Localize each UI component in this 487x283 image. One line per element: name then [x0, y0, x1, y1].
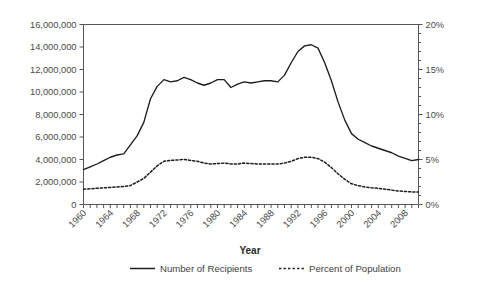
y2-tick-label: 15%: [426, 65, 445, 75]
legend-label: Percent of Population: [309, 263, 401, 274]
chart-legend: Number of RecipientsPercent of Populatio…: [130, 263, 401, 274]
x-tick-label: 1984: [228, 208, 250, 230]
y-tick-label: 8,000,000: [35, 110, 76, 120]
data-series-group: [84, 45, 419, 192]
y-tick-label: 0: [71, 200, 76, 210]
x-tick-label: 1980: [201, 208, 223, 230]
y-axis-left-ticks: 02,000,0004,000,0006,000,0008,000,00010,…: [30, 20, 84, 210]
x-axis-title: Year: [239, 245, 260, 256]
x-tick-label: 1988: [254, 208, 276, 230]
y2-tick-label: 10%: [426, 110, 445, 120]
y2-tick-label: 0%: [426, 200, 439, 210]
x-tick-label: 1976: [174, 208, 196, 230]
x-tick-label: 1992: [281, 208, 303, 230]
line-chart: 02,000,0004,000,0006,000,0008,000,00010,…: [0, 0, 487, 283]
y-tick-label: 12,000,000: [30, 65, 77, 75]
series-line-dotted: [84, 157, 419, 192]
x-axis-ticks: 1960196419681972197619801984198819921996…: [67, 205, 419, 230]
x-tick-label: 1960: [67, 208, 89, 230]
x-tick-label: 2008: [388, 208, 410, 230]
x-tick-label: 1968: [120, 208, 142, 230]
y-tick-label: 6,000,000: [35, 132, 76, 142]
x-tick-label: 1972: [147, 208, 169, 230]
x-tick-label: 1964: [94, 208, 116, 230]
y-tick-label: 10,000,000: [30, 87, 77, 97]
y-tick-label: 16,000,000: [30, 20, 77, 30]
legend-label: Number of Recipients: [160, 263, 252, 274]
plot-frame: [84, 24, 419, 205]
chart-container: 02,000,0004,000,0006,000,0008,000,00010,…: [0, 0, 487, 283]
series-line-solid: [84, 45, 419, 170]
y-tick-label: 2,000,000: [35, 177, 76, 187]
x-tick-label: 2000: [335, 208, 357, 230]
y2-tick-label: 20%: [426, 20, 445, 30]
y-tick-label: 14,000,000: [30, 42, 77, 52]
x-tick-label: 1996: [308, 208, 330, 230]
y-axis-right-ticks: 0%5%10%15%20%: [419, 20, 445, 210]
y-tick-label: 4,000,000: [35, 155, 76, 165]
y2-tick-label: 5%: [426, 155, 439, 165]
x-tick-label: 2004: [362, 208, 384, 230]
